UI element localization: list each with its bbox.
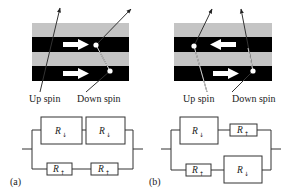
- svg-text:R: R: [97, 164, 104, 174]
- panel-a-circuit: R ↓ R ↓ R ↑ R ↑: [22, 117, 143, 176]
- svg-text:↑: ↑: [244, 130, 249, 137]
- panel-a-label: (a): [10, 176, 21, 188]
- svg-text:R: R: [191, 165, 198, 175]
- panel-a-layer-stack: [32, 8, 131, 92]
- scattering-point: [93, 42, 98, 47]
- nonmagnetic-layer-top: [174, 23, 272, 37]
- svg-text:R: R: [54, 126, 61, 136]
- svg-text:↑: ↑: [60, 169, 65, 176]
- svg-text:R: R: [98, 126, 105, 136]
- resistor-r-down: [224, 156, 262, 183]
- svg-text:↓: ↓: [244, 170, 249, 177]
- svg-text:↑: ↑: [199, 170, 204, 177]
- svg-text:R: R: [236, 125, 243, 135]
- up-spin-label: Up spin: [29, 93, 60, 104]
- svg-text:R: R: [236, 165, 243, 175]
- nonmagnetic-layer-top: [32, 23, 129, 37]
- up-spin-label: Up spin: [183, 93, 214, 104]
- panel-b-circuit: R ↓ R ↑ R ↑ R ↓: [161, 117, 281, 183]
- panel-b-label: (b): [149, 176, 161, 188]
- panel-b-layer-stack: [174, 9, 272, 92]
- svg-text:R: R: [191, 126, 198, 136]
- svg-text:↓: ↓: [62, 131, 67, 138]
- down-spin-label: Down spin: [232, 93, 276, 104]
- scattering-point: [250, 68, 255, 73]
- scattering-point: [107, 68, 112, 73]
- down-spin-label: Down spin: [77, 93, 121, 104]
- gmr-diagram: Up spin Down spin Up spin Down spin R ↓ …: [0, 0, 294, 194]
- svg-text:R: R: [52, 164, 59, 174]
- svg-text:↓: ↓: [106, 131, 111, 138]
- nonmagnetic-spacer: [174, 52, 272, 66]
- svg-text:↓: ↓: [199, 131, 204, 138]
- scattering-point: [191, 43, 196, 48]
- svg-text:↑: ↑: [105, 169, 110, 176]
